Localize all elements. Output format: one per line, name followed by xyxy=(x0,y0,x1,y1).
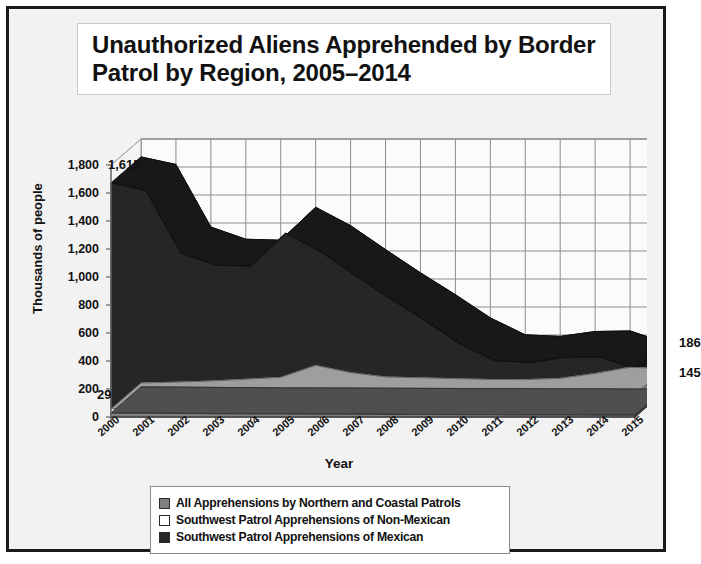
legend-swatch-icon xyxy=(159,515,170,526)
page-title: Unauthorized Aliens Apprehended by Borde… xyxy=(78,31,610,88)
legend-item-label: Southwest Patrol Apprehensions of Mexica… xyxy=(176,530,423,544)
plot-area xyxy=(97,127,647,439)
legend-item-label: Southwest Patrol Apprehensions of Non-Me… xyxy=(176,513,450,527)
legend-swatch-icon xyxy=(159,532,170,543)
y-tick-label: 1,400 xyxy=(68,214,99,228)
y-tick-label: 800 xyxy=(78,298,99,312)
chart-legend: All Apprehensions by Northern and Coasta… xyxy=(150,486,510,554)
x-axis-title: Year xyxy=(9,456,669,471)
callout-end-lower: 145 xyxy=(679,365,701,380)
y-tick-label: 1,200 xyxy=(68,242,99,256)
y-axis-ticks: 02004006008001,0001,2001,4001,6001,800 xyxy=(17,127,99,439)
legend-item-0[interactable]: All Apprehensions by Northern and Coasta… xyxy=(159,496,501,510)
y-tick-label: 1,800 xyxy=(68,158,99,172)
callout-start-small: 29 xyxy=(97,387,111,402)
callout-peak: 1,615 xyxy=(108,157,141,172)
legend-item-2[interactable]: Southwest Patrol Apprehensions of Mexica… xyxy=(159,530,501,544)
y-tick-label: 1,000 xyxy=(68,270,99,284)
legend-swatch-icon xyxy=(159,498,170,509)
y-tick-label: 200 xyxy=(78,382,99,396)
y-tick-label: 400 xyxy=(78,354,99,368)
chart-frame: Unauthorized Aliens Apprehended by Borde… xyxy=(6,6,666,552)
legend-item-1[interactable]: Southwest Patrol Apprehensions of Non-Me… xyxy=(159,513,501,527)
chart-title-box: Unauthorized Aliens Apprehended by Borde… xyxy=(77,23,611,95)
callout-end-upper: 186 xyxy=(679,335,701,350)
y-tick-label: 1,600 xyxy=(68,186,99,200)
y-tick-label: 600 xyxy=(78,326,99,340)
legend-item-label: All Apprehensions by Northern and Coasta… xyxy=(176,496,461,510)
